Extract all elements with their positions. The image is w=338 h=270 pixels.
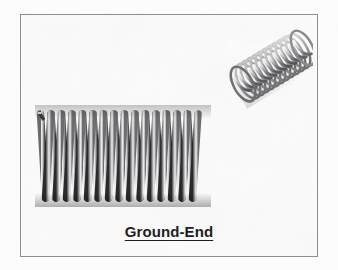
spring-2d-side-view (35, 105, 211, 207)
caption-label: Ground-End (125, 223, 213, 240)
figure-canvas: Ground-End (0, 0, 338, 270)
illustration-frame: Ground-End (20, 14, 318, 257)
spring-3d-isometric (217, 27, 313, 115)
caption: Ground-End (21, 223, 317, 241)
